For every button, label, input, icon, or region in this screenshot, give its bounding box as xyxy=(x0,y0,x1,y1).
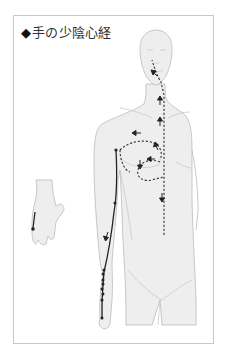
hand-inset xyxy=(31,180,64,245)
meridian-figure xyxy=(0,0,230,355)
body-silhouette xyxy=(94,30,198,329)
acupoint-dot xyxy=(31,227,35,231)
